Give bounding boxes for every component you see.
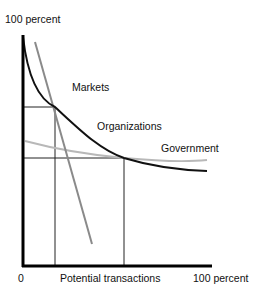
government-label: Government [161,142,219,154]
y-axis-top-label: 100 percent [5,13,60,25]
organizations-label: Organizations [97,120,162,132]
x-axis-end-label: 100 percent [193,272,248,284]
markets-line [35,42,92,244]
markets-label: Markets [72,81,109,93]
chart-canvas [0,0,263,300]
x-axis-label: Potential transactions [60,272,160,284]
origin-label: 0 [18,272,24,284]
